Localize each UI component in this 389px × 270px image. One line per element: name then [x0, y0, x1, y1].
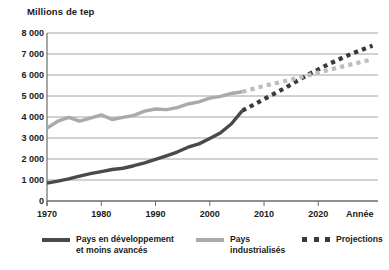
legend-swatch-industrialized-icon [196, 238, 224, 242]
energy-consumption-chart: Millions de tep 8 0007 0006 0005 0004 00… [0, 0, 389, 270]
chart-legend: Pays en développement et moins avancésPa… [0, 232, 389, 270]
legend-item: Pays en développement et moins avancés [42, 234, 174, 255]
series-line [242, 46, 372, 111]
x-tick-label: 2000 [200, 209, 220, 219]
legend-swatch-developing-icon [42, 238, 70, 242]
x-tick-label: 2010 [254, 209, 274, 219]
legend-label: Pays industrialisés [230, 234, 285, 255]
plot-area [0, 0, 389, 270]
x-tick-label: 1980 [91, 209, 111, 219]
x-tick-label: 2020 [308, 209, 328, 219]
legend-label: Pays en développement et moins avancés [76, 234, 174, 255]
x-tick-label: 1970 [37, 209, 57, 219]
legend-item: Projections [302, 234, 383, 245]
legend-item: Pays industrialisés [196, 234, 285, 255]
legend-swatch-projections-icon [302, 237, 330, 242]
series-line [242, 59, 372, 92]
series-line [47, 92, 242, 128]
x-tick-label: 1990 [146, 209, 166, 219]
x-axis-title: Année [346, 209, 374, 219]
legend-label: Projections [336, 234, 383, 245]
